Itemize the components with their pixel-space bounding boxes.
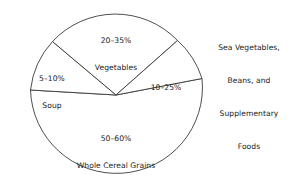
slice-name-soup: Soup — [24, 101, 80, 110]
side-note-line-4: Foods — [203, 141, 295, 152]
side-note-supplementary-foods: Sea Vegetables, Beans, and Supplementary… — [203, 20, 295, 174]
pie-chart-figure: 20–35% Vegetables 5–10% Soup 10–25% 50–6… — [0, 0, 295, 192]
slice-percent-supplementary-foods: 10–25% — [140, 83, 192, 92]
slice-name-whole-cereal-grains: Whole Cereal Grains — [56, 161, 176, 170]
slice-label-whole-cereal-grains: 50–60% Whole Cereal Grains — [56, 115, 176, 189]
slice-label-supplementary-foods: 10–25% — [140, 64, 192, 110]
side-note-line-3: Supplementary — [203, 108, 295, 119]
slice-percent-whole-cereal-grains: 50–60% — [56, 134, 176, 143]
side-note-line-1: Sea Vegetables, — [203, 42, 295, 53]
side-note-line-2: Beans, and — [203, 75, 295, 86]
slice-percent-soup: 5–10% — [24, 74, 80, 83]
slice-percent-vegetables: 20–35% — [73, 36, 159, 45]
